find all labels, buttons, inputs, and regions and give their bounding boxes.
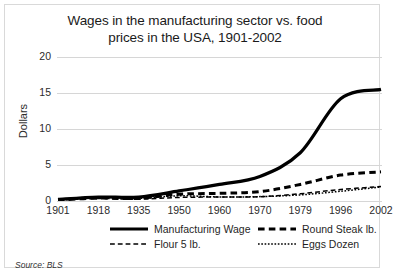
series-lines bbox=[57, 57, 382, 201]
series-line bbox=[58, 89, 381, 199]
plot-area bbox=[57, 57, 382, 201]
y-tick-label: 10 bbox=[25, 122, 51, 134]
x-tick-label: 1935 bbox=[127, 204, 150, 216]
legend-swatch-icon bbox=[257, 239, 297, 249]
y-tick-label: 5 bbox=[25, 158, 51, 170]
legend-label: Eggs Dozen bbox=[302, 239, 359, 250]
y-axis-tick-labels: 05101520 bbox=[23, 57, 51, 201]
legend-swatch-icon bbox=[109, 224, 149, 234]
legend-item[interactable]: Manufacturing Wage bbox=[109, 224, 251, 235]
chart-title-line-2: prices in the USA, 1901-2002 bbox=[35, 30, 355, 47]
x-tick-label: 2002 bbox=[369, 204, 392, 216]
series-line bbox=[58, 187, 381, 200]
legend-item[interactable]: Round Steak lb. bbox=[257, 224, 377, 235]
x-axis-tick-labels: 190119181935195019601970197919962002 bbox=[57, 204, 382, 220]
x-tick-label: 1960 bbox=[208, 204, 231, 216]
legend-label: Flour 5 lb. bbox=[154, 239, 201, 250]
legend-item[interactable]: Flour 5 lb. bbox=[109, 239, 201, 250]
x-tick-label: 1979 bbox=[289, 204, 312, 216]
x-tick-label: 1901 bbox=[46, 204, 69, 216]
legend-label: Round Steak lb. bbox=[302, 224, 377, 235]
x-tick-label: 1918 bbox=[87, 204, 110, 216]
y-tick-label: 15 bbox=[25, 86, 51, 98]
chart-title-line-1: Wages in the manufacturing sector vs. fo… bbox=[35, 13, 355, 30]
chart-legend: Manufacturing WageRound Steak lb.Flour 5… bbox=[57, 224, 379, 256]
chart-frame: Wages in the manufacturing sector vs. fo… bbox=[4, 4, 380, 268]
y-tick-label: 20 bbox=[25, 50, 51, 62]
chart-title: Wages in the manufacturing sector vs. fo… bbox=[35, 13, 355, 47]
x-tick-label: 1970 bbox=[248, 204, 271, 216]
source-note: Source: BLS bbox=[15, 260, 63, 270]
legend-swatch-icon bbox=[109, 239, 149, 249]
legend-item[interactable]: Eggs Dozen bbox=[257, 239, 359, 250]
x-tick-label: 1950 bbox=[167, 204, 190, 216]
legend-swatch-icon bbox=[257, 224, 297, 234]
gridline bbox=[57, 201, 382, 202]
legend-label: Manufacturing Wage bbox=[154, 224, 251, 235]
x-tick-label: 1996 bbox=[329, 204, 352, 216]
